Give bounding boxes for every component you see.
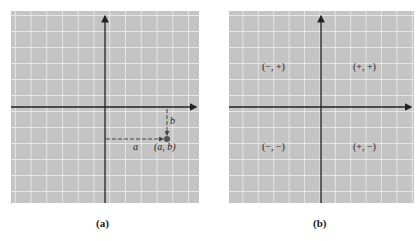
panel-b-plane xyxy=(229,11,414,203)
coordinate-planes xyxy=(0,0,420,241)
figure: a b (a, b) (−, +) (+, +) (−, −) (+, −) (… xyxy=(0,0,420,241)
quadrant-1-label: (+, +) xyxy=(353,61,376,72)
quadrant-4-label: (+, −) xyxy=(353,141,376,152)
quadrant-3-label: (−, −) xyxy=(262,141,285,152)
panel-a-plane xyxy=(11,11,199,203)
b-label: b xyxy=(170,115,175,126)
point-label: (a, b) xyxy=(154,141,176,152)
a-label: a xyxy=(133,141,138,152)
quadrant-2-label: (−, +) xyxy=(262,61,285,72)
caption-b: (b) xyxy=(313,217,326,229)
caption-a: (a) xyxy=(96,217,109,229)
